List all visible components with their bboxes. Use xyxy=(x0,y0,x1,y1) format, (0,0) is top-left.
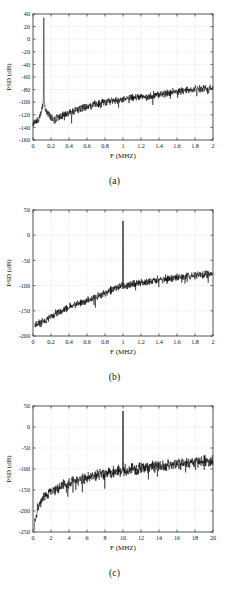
svg-text:0: 0 xyxy=(31,142,34,149)
svg-text:0.4: 0.4 xyxy=(65,338,73,345)
svg-text:40: 40 xyxy=(24,10,30,17)
svg-text:-80: -80 xyxy=(22,86,30,93)
svg-text:1.4: 1.4 xyxy=(155,142,163,149)
psd-chart-a: 00.20.40.60.811.21.41.61.82-160-140-120-… xyxy=(0,0,229,168)
svg-text:-40: -40 xyxy=(22,61,30,68)
caption-c: (c) xyxy=(0,568,229,578)
svg-text:0.6: 0.6 xyxy=(83,338,91,345)
svg-text:50: 50 xyxy=(24,206,30,213)
svg-text:0.2: 0.2 xyxy=(47,142,55,149)
svg-text:F (MHZ): F (MHZ) xyxy=(110,348,137,356)
svg-text:-50: -50 xyxy=(22,257,30,264)
svg-text:0: 0 xyxy=(27,231,30,238)
svg-text:1.4: 1.4 xyxy=(155,338,163,345)
caption-b: (b) xyxy=(0,372,229,382)
svg-text:6: 6 xyxy=(85,534,88,541)
svg-text:0.6: 0.6 xyxy=(83,142,91,149)
svg-text:4: 4 xyxy=(67,534,70,541)
svg-text:PSD (dB): PSD (dB) xyxy=(5,63,13,91)
svg-text:12: 12 xyxy=(138,534,144,541)
svg-text:1.2: 1.2 xyxy=(137,142,145,149)
svg-text:14: 14 xyxy=(156,534,162,541)
svg-text:1: 1 xyxy=(121,142,124,149)
plot-area-b: 00.20.40.60.811.21.41.61.82-200-150-100-… xyxy=(0,196,229,364)
svg-text:PSD (dB): PSD (dB) xyxy=(5,259,13,287)
psd-chart-c: 02468101214161820-250-200-150-100-50050F… xyxy=(0,392,229,560)
svg-text:0.8: 0.8 xyxy=(101,142,109,149)
svg-text:16: 16 xyxy=(174,534,180,541)
figure-panel-b: 00.20.40.60.811.21.41.61.82-200-150-100-… xyxy=(0,196,229,392)
svg-text:10: 10 xyxy=(120,534,126,541)
svg-text:-150: -150 xyxy=(19,486,30,493)
svg-text:0.8: 0.8 xyxy=(101,338,109,345)
svg-text:-150: -150 xyxy=(19,307,30,314)
svg-text:0.2: 0.2 xyxy=(47,338,55,345)
svg-text:-160: -160 xyxy=(19,136,30,143)
plot-area-a: 00.20.40.60.811.21.41.61.82-160-140-120-… xyxy=(0,0,229,168)
svg-text:-20: -20 xyxy=(22,48,30,55)
svg-text:20: 20 xyxy=(210,534,216,541)
svg-text:-200: -200 xyxy=(19,507,30,514)
svg-text:-100: -100 xyxy=(19,465,30,472)
svg-text:1: 1 xyxy=(121,338,124,345)
plot-area-c: 02468101214161820-250-200-150-100-50050F… xyxy=(0,392,229,560)
figure-panel-c: 02468101214161820-250-200-150-100-50050F… xyxy=(0,392,229,589)
svg-text:-100: -100 xyxy=(19,98,30,105)
psd-chart-b: 00.20.40.60.811.21.41.61.82-200-150-100-… xyxy=(0,196,229,364)
svg-text:-60: -60 xyxy=(22,73,30,80)
svg-text:-140: -140 xyxy=(19,124,30,131)
svg-text:2: 2 xyxy=(49,534,52,541)
figure-panel-a: 00.20.40.60.811.21.41.61.82-160-140-120-… xyxy=(0,0,229,196)
svg-text:2: 2 xyxy=(211,338,214,345)
svg-text:50: 50 xyxy=(24,402,30,409)
svg-text:1.6: 1.6 xyxy=(173,142,181,149)
svg-text:0.4: 0.4 xyxy=(65,142,73,149)
svg-text:-200: -200 xyxy=(19,332,30,339)
svg-text:F (MHZ): F (MHZ) xyxy=(110,544,137,552)
svg-text:1.8: 1.8 xyxy=(191,142,199,149)
svg-text:-100: -100 xyxy=(19,282,30,289)
svg-text:1.6: 1.6 xyxy=(173,338,181,345)
svg-text:0: 0 xyxy=(27,35,30,42)
svg-text:1.8: 1.8 xyxy=(191,338,199,345)
svg-text:0: 0 xyxy=(27,423,30,430)
svg-text:-120: -120 xyxy=(19,111,30,118)
svg-text:0: 0 xyxy=(31,534,34,541)
figure-page: 00.20.40.60.811.21.41.61.82-160-140-120-… xyxy=(0,0,229,589)
svg-text:1.2: 1.2 xyxy=(137,338,145,345)
svg-text:-50: -50 xyxy=(22,444,30,451)
svg-text:20: 20 xyxy=(24,23,30,30)
svg-text:8: 8 xyxy=(103,534,106,541)
svg-text:PSD (dB): PSD (dB) xyxy=(5,455,13,483)
svg-text:-250: -250 xyxy=(19,528,30,535)
svg-text:2: 2 xyxy=(211,142,214,149)
svg-text:F (MHZ): F (MHZ) xyxy=(110,152,137,160)
caption-a: (a) xyxy=(0,176,229,186)
svg-text:18: 18 xyxy=(192,534,198,541)
svg-text:0: 0 xyxy=(31,338,34,345)
